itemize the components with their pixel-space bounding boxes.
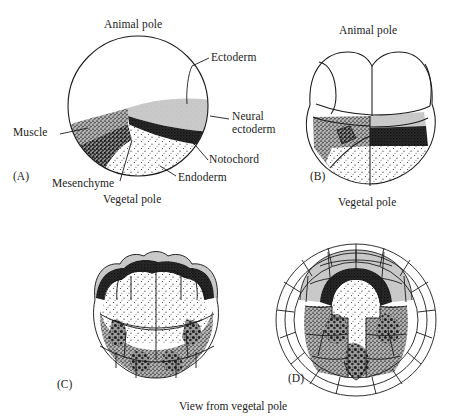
label-endoderm: Endoderm bbox=[178, 171, 227, 184]
panel-a-letter: (A) bbox=[13, 170, 29, 182]
label-notochord: Notochord bbox=[209, 153, 259, 166]
panel-b-diagram bbox=[300, 45, 445, 190]
panel-a-animal-pole-label: Animal pole bbox=[104, 18, 162, 31]
ascidian-fate-map-figure: Animal pole Ectoderm Neural ectoderm Not… bbox=[0, 0, 455, 419]
figure-caption: View from vegetal pole bbox=[179, 400, 287, 412]
label-neural-ectoderm: Neural ectoderm bbox=[232, 110, 294, 135]
label-muscle: Muscle bbox=[13, 126, 47, 139]
panel-b-animal-pole-label: Animal pole bbox=[339, 24, 397, 37]
panel-b-vegetal-pole-label: Vegetal pole bbox=[338, 196, 396, 209]
region-b-notochord bbox=[370, 126, 428, 146]
label-ectoderm: Ectoderm bbox=[211, 51, 257, 64]
panel-a-diagram bbox=[60, 34, 229, 181]
panel-d-letter: (D) bbox=[288, 372, 304, 384]
panel-a-vegetal-pole-label: Vegetal pole bbox=[103, 193, 161, 206]
panel-b-letter: (B) bbox=[310, 170, 325, 182]
panel-c-diagram bbox=[85, 245, 235, 385]
region-b-endoderm-right bbox=[370, 146, 430, 186]
panel-c-letter: (C) bbox=[57, 378, 72, 390]
label-mesenchyme: Mesenchyme bbox=[52, 177, 114, 190]
